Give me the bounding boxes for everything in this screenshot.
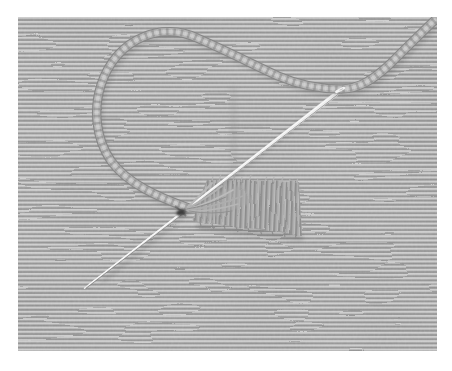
fabric-crease <box>230 86 237 176</box>
photo-content <box>14 13 441 355</box>
embroidery-photo-svg: Black-and-white close-up photograph of h… <box>0 0 452 371</box>
embroidery-photo: Black-and-white close-up photograph of h… <box>0 0 452 371</box>
photo-frame: Black-and-white close-up photograph of h… <box>0 0 452 371</box>
